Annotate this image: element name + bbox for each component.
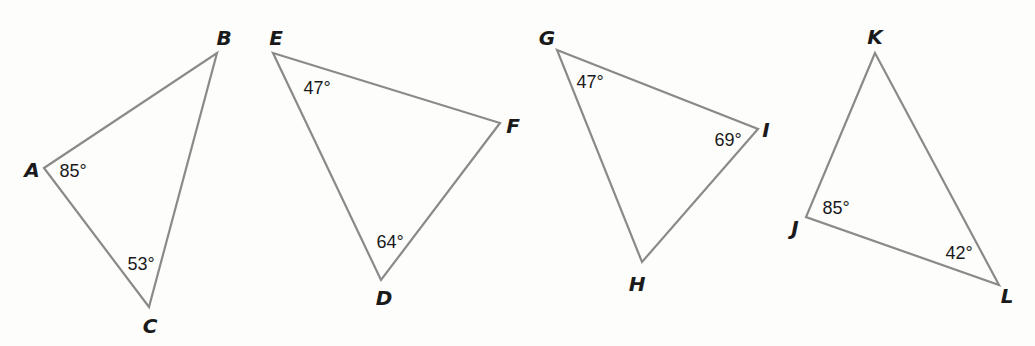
angle-label-e: 47°: [303, 78, 330, 99]
triangles-diagram: ABC85°53°EFD47°64°GIH47°69°KJL85°42°: [0, 0, 1035, 346]
vertex-label-f: F: [506, 114, 520, 138]
angle-label-d: 64°: [376, 232, 403, 253]
angle-label-c: 53°: [127, 254, 154, 275]
vertex-label-j: J: [791, 216, 798, 240]
angle-label-i: 69°: [714, 130, 741, 151]
triangle-edges: [0, 0, 1035, 346]
vertex-label-l: L: [1001, 284, 1014, 308]
vertex-label-i: I: [762, 118, 769, 142]
vertex-label-e: E: [269, 26, 283, 50]
vertex-label-g: G: [539, 26, 555, 50]
angle-label-g: 47°: [576, 72, 603, 93]
angle-label-j: 85°: [822, 198, 849, 219]
vertex-label-h: H: [629, 272, 646, 296]
vertex-label-c: C: [143, 314, 158, 338]
vertex-label-d: D: [376, 286, 393, 310]
angle-label-a: 85°: [59, 161, 86, 182]
vertex-label-k: K: [867, 25, 883, 49]
vertex-label-a: A: [24, 158, 39, 182]
angle-label-l: 42°: [945, 243, 972, 264]
vertex-label-b: B: [216, 26, 231, 50]
